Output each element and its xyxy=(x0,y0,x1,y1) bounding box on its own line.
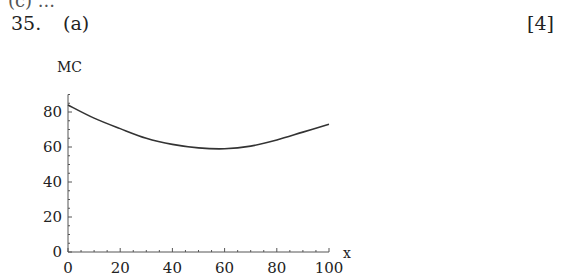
svg-text:20: 20 xyxy=(43,208,62,226)
svg-text:40: 40 xyxy=(163,259,182,277)
y-axis-label: MC xyxy=(57,59,82,75)
svg-text:0: 0 xyxy=(52,243,62,261)
svg-text:0: 0 xyxy=(63,259,73,277)
svg-text:80: 80 xyxy=(267,259,286,277)
mc-curve xyxy=(68,105,329,149)
svg-text:40: 40 xyxy=(43,173,62,191)
x-axis-label: x xyxy=(343,245,351,261)
chart-ticks xyxy=(68,95,329,253)
svg-text:60: 60 xyxy=(43,138,62,156)
chart-tick-labels: 020406080100020406080 xyxy=(43,103,343,277)
chart-axes xyxy=(68,95,329,253)
mc-chart: 020406080100020406080 MC x xyxy=(0,0,561,280)
svg-text:80: 80 xyxy=(43,103,62,121)
svg-text:100: 100 xyxy=(315,259,344,277)
svg-text:20: 20 xyxy=(111,259,130,277)
svg-text:60: 60 xyxy=(215,259,234,277)
